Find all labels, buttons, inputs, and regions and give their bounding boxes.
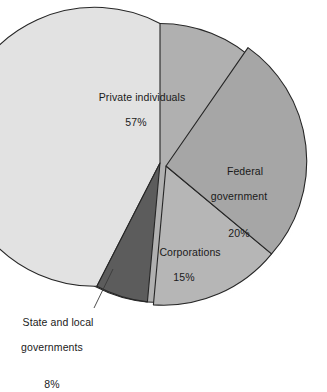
slice-value-private-individuals: 57%	[82, 116, 190, 129]
slice-label-corporations: Corporations 15%	[140, 233, 228, 308]
slice-label-corporations-text: Corporations	[159, 246, 220, 258]
slice-label-private-individuals-text: Private individuals	[99, 91, 186, 103]
slice-label-federal-government-text-line1: Federal	[227, 165, 263, 177]
slice-value-corporations: 15%	[140, 271, 228, 284]
slice-label-private-individuals: Private individuals 57%	[82, 78, 190, 153]
slice-label-federal-government-text-line2: government	[196, 190, 282, 203]
slice-label-state-and-local-governments-text-line2: governments	[0, 341, 104, 354]
slice-label-state-and-local-governments-text-line1: State and local	[23, 316, 94, 328]
slice-label-state-and-local-governments: State and local governments 8%	[0, 303, 104, 392]
slice-value-state-and-local-governments: 8%	[0, 378, 104, 391]
